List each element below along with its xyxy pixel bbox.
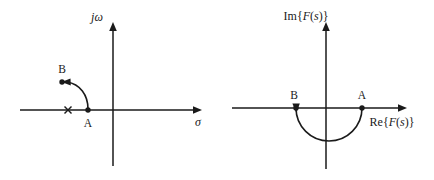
im-axis-arrowhead	[322, 22, 330, 31]
re-axis-arrowhead	[398, 104, 407, 112]
f-plane-point-a-label: A	[358, 89, 367, 101]
jomega-axis-label: jω	[89, 10, 103, 24]
im-axis-label-suffix: }	[323, 9, 329, 23]
s-plane-vertical-axis	[109, 22, 117, 166]
s-plane-locus-arc	[62, 79, 89, 109]
s-plane-point-a-dot	[85, 107, 90, 112]
f-plane-point-b-dot	[293, 105, 298, 110]
sigma-axis-label: σ	[195, 115, 202, 129]
s-plane-point-b-label: B	[58, 63, 66, 75]
f-plane-vertical-axis	[322, 22, 330, 169]
f-plane-point-a-dot	[359, 105, 364, 110]
jomega-axis-arrowhead	[109, 22, 117, 31]
f-plane-point-b-label: B	[290, 89, 298, 101]
re-axis-label: Re{F(s)}	[370, 115, 415, 129]
s-plane-point-a-label: A	[84, 117, 93, 129]
panel-f-plane: A B Im{F(s)} Re{F(s)}	[217, 0, 434, 180]
f-plane-horizontal-axis	[232, 104, 407, 112]
s-plane-point-b-dot	[59, 79, 64, 84]
figure-root: A B jω σ A	[0, 0, 434, 180]
f-plane-locus-semicircle	[292, 103, 362, 141]
im-axis-label-prefix: Im{	[284, 9, 303, 23]
jomega-axis-label-omega: ω	[94, 10, 102, 24]
sigma-axis-arrowhead	[193, 106, 202, 114]
re-axis-label-suffix: }	[409, 115, 415, 129]
re-axis-label-prefix: Re{	[370, 115, 389, 129]
panel-s-plane: A B jω σ	[0, 0, 217, 180]
s-plane-horizontal-axis	[20, 106, 202, 114]
im-axis-label: Im{F(s)}	[284, 9, 329, 23]
